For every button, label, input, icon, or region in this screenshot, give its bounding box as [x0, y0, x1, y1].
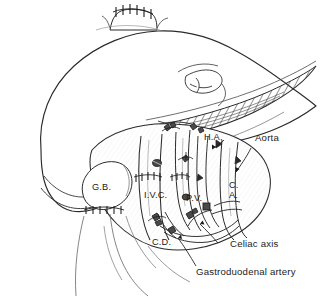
clip-ivc-mid: [153, 160, 162, 167]
label-portal-vein: P.V.: [186, 194, 202, 203]
label-common-duct: C.D.: [152, 238, 171, 247]
label-celiac-axis-abbrev: C. A.: [229, 181, 238, 200]
clip-hepatic-lower: [203, 203, 210, 210]
label-celiac-axis-abbrev-line2: A.: [229, 191, 238, 201]
label-gallbladder: G.B.: [92, 183, 111, 192]
line-art-canvas: [0, 0, 324, 305]
label-hepatic-artery: H.A.: [204, 133, 223, 142]
liver-caudate-process: [185, 70, 222, 93]
label-aorta: Aorta: [255, 133, 279, 143]
label-gastroduodenal-artery: Gastroduodenal artery: [196, 267, 296, 277]
label-celiac-axis: Celiac axis: [230, 239, 279, 249]
anatomical-illustration: H.A. Aorta G.B. I.V.C. P.V. C. A. C.D. C…: [0, 0, 324, 305]
label-inferior-vena-cava: I.V.C.: [144, 191, 167, 200]
ligated-vessel-stump: [96, 4, 168, 30]
